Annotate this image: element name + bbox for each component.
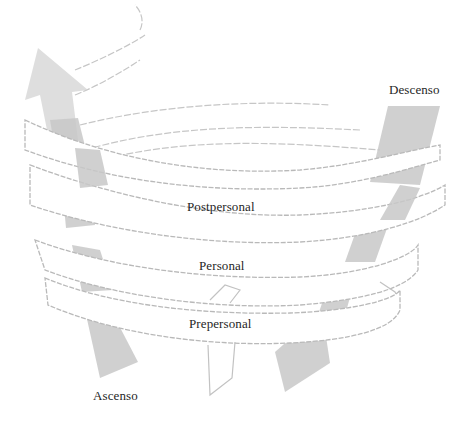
ribbon-tail: [208, 342, 235, 395]
label-ascenso: Ascenso: [93, 388, 138, 404]
label-personal: Personal: [199, 258, 245, 274]
label-descenso: Descenso: [389, 82, 440, 98]
label-prepersonal: Prepersonal: [189, 316, 251, 332]
upper-spiral-back-lines: [75, 5, 380, 160]
label-postpersonal: Postpersonal: [187, 199, 255, 215]
